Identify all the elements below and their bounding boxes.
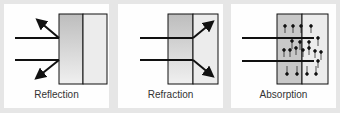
- reflection-panel: Reflection: [4, 4, 109, 108]
- absorption-panel: Absorption: [231, 4, 336, 108]
- refraction-panel: Refraction: [118, 4, 223, 108]
- refraction-caption: Refraction: [118, 89, 223, 100]
- reflection-caption: Reflection: [4, 89, 109, 100]
- absorption-caption: Absorption: [231, 89, 336, 100]
